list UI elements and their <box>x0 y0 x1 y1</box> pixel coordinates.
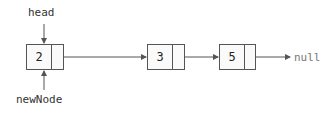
newnode-label: newNode <box>16 93 62 106</box>
head-label: head <box>28 6 55 19</box>
linked-list-diagram: head newNode 2 3 5 null <box>0 0 336 114</box>
node-value: 2 <box>27 45 52 69</box>
list-node-2: 3 <box>147 44 185 70</box>
null-label: null <box>294 51 321 64</box>
node-value: 5 <box>220 45 245 69</box>
list-node-1: 2 <box>26 44 64 70</box>
list-node-3: 5 <box>219 44 256 70</box>
node-value: 3 <box>148 45 173 69</box>
